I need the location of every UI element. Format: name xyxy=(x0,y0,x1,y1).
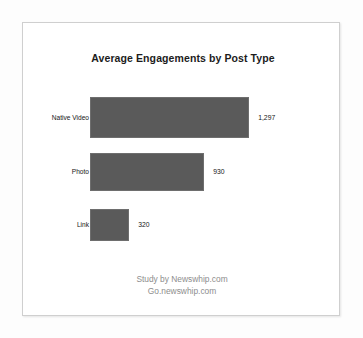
chart-title: Average Engagements by Post Type xyxy=(63,51,303,65)
chart-footer: Study by Newswhip.com Go.newswhip.com xyxy=(23,273,341,297)
figure-canvas: Average Engagements by Post Type Native … xyxy=(0,0,363,338)
category-label: Native Video xyxy=(0,114,89,121)
bar-row: Native Video1,297 xyxy=(23,97,341,138)
bar-value-label: 320 xyxy=(138,221,149,228)
category-label: Link xyxy=(0,221,89,228)
bar xyxy=(90,97,249,138)
bar-value-label: 930 xyxy=(213,168,224,175)
category-label: Photo xyxy=(0,168,89,175)
bar-row: Link320 xyxy=(23,209,341,241)
bar xyxy=(90,153,204,191)
bar-row: Photo930 xyxy=(23,153,341,191)
footer-line-2: Go.newswhip.com xyxy=(23,285,341,297)
bar-value-label: 1,297 xyxy=(258,114,275,121)
plot-area: Native Video1,297Photo930Link320 xyxy=(23,87,341,267)
bar xyxy=(90,209,129,241)
footer-line-1: Study by Newswhip.com xyxy=(23,273,341,285)
figure-frame: Average Engagements by Post Type Native … xyxy=(22,22,340,316)
